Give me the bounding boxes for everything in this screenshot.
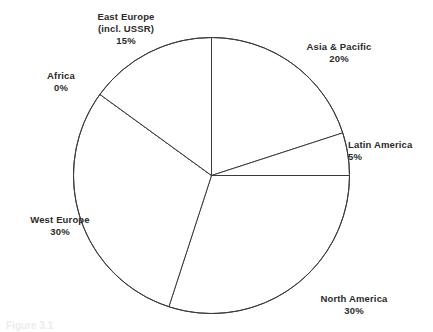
pie-chart-figure: East Europe (incl. USSR) 15% Asia & Paci… (0, 0, 433, 332)
slice-label-asia-pacific-value: 20% (276, 53, 402, 65)
slice-label-east-europe-name: East Europe (60, 11, 192, 23)
slice-label-west-europe-name: West Europe (4, 214, 116, 226)
slice-label-asia-pacific: Asia & Pacific 20% (276, 41, 402, 65)
slice-label-east-europe-subname: (incl. USSR) (60, 23, 192, 35)
slice-label-asia-pacific-name: Asia & Pacific (276, 41, 402, 53)
slice-label-east-europe-value: 15% (60, 35, 192, 47)
slice-label-north-america: North America 30% (290, 293, 418, 317)
slice-label-west-europe-value: 30% (4, 226, 116, 238)
figure-caption: Figure 3.1 (6, 320, 53, 331)
slice-label-west-europe: West Europe 30% (4, 214, 116, 238)
slice-label-latin-america: Latin America 5% (348, 139, 433, 163)
slice-label-latin-america-name: Latin America (348, 139, 433, 151)
slice-label-north-america-value: 30% (290, 305, 418, 317)
slice-label-africa: Africa 0% (16, 70, 106, 94)
pie-slice-group (74, 38, 350, 314)
slice-label-east-europe: East Europe (incl. USSR) 15% (60, 11, 192, 47)
slice-label-north-america-name: North America (290, 293, 418, 305)
slice-label-africa-value: 0% (16, 82, 106, 94)
slice-label-africa-name: Africa (16, 70, 106, 82)
slice-label-latin-america-value: 5% (348, 151, 433, 163)
